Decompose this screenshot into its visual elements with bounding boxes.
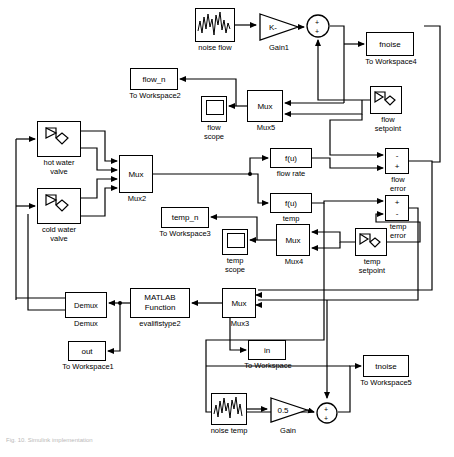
block-noise-flow-label: noise flow: [185, 44, 245, 53]
block-demux[interactable]: Demux: [65, 292, 107, 318]
block-flow-rate-fcn[interactable]: f(u): [270, 148, 312, 168]
valve-subsystem-icon: [38, 122, 79, 155]
block-flow-rate-sub: flow rate: [262, 170, 320, 179]
svg-text:+: +: [324, 406, 328, 413]
block-temp-scope-label: temp scope: [210, 257, 260, 274]
block-cold-water-valve-label: cold water valve: [25, 226, 93, 243]
sum-round-icon: + +: [306, 14, 330, 38]
block-noise-flow[interactable]: [195, 8, 235, 42]
block-mux4-sub: Mux4: [273, 258, 315, 267]
sum-round-icon: + +: [316, 402, 338, 424]
scope-screen-icon: [206, 100, 224, 115]
block-matlab-function-sub: evalifistype2: [122, 320, 198, 329]
block-temp-n-sub: To Workspace3: [148, 230, 222, 239]
block-in-workspace-sub: To Workspace: [234, 362, 302, 371]
block-matlab-function[interactable]: MATLAB Function: [130, 288, 190, 318]
block-sum-flow-noise[interactable]: + +: [306, 14, 330, 38]
svg-text:+: +: [324, 415, 328, 422]
block-out-workspace-sub: To Workspace1: [52, 363, 124, 372]
svg-text:+: +: [315, 19, 319, 26]
block-in-workspace[interactable]: in: [248, 340, 286, 360]
block-temp-fcn-sub: temp: [265, 215, 317, 224]
block-mux2-sub: Mux2: [116, 195, 158, 204]
block-mux5-sub: Mux5: [245, 124, 287, 133]
block-flow-setpoint[interactable]: [370, 86, 402, 114]
white-noise-icon: [212, 394, 245, 423]
block-tnoise[interactable]: tnoise: [363, 355, 409, 377]
valve-subsystem-icon: [38, 189, 79, 222]
figure-caption: Fig. 10. Simulink implementation: [6, 437, 93, 443]
block-flow-n-sub: To Workspace2: [118, 92, 192, 101]
block-noise-temp-label: noise temp: [199, 427, 259, 436]
block-temp-setpoint[interactable]: [355, 228, 387, 256]
flow-error-sign-bottom: +: [389, 160, 405, 173]
signal-generator-icon: [356, 229, 385, 254]
block-flow-scope-label: flow scope: [189, 124, 239, 141]
block-mux2[interactable]: Mux: [119, 155, 153, 193]
simulink-diagram-canvas: noise flow K- Gain1 + + fnoise To Worksp…: [0, 0, 454, 457]
block-mux3[interactable]: Mux: [222, 288, 256, 318]
block-fnoise-sub: To Workspace4: [356, 58, 426, 67]
block-mux5[interactable]: Mux: [247, 90, 283, 122]
block-hot-water-valve[interactable]: [37, 121, 81, 157]
block-flow-scope[interactable]: [201, 96, 227, 122]
block-temp-fcn[interactable]: f(u): [270, 193, 312, 213]
block-demux-sub: Demux: [62, 320, 110, 329]
block-out-workspace[interactable]: out: [68, 341, 106, 361]
block-temp-n[interactable]: temp_n: [161, 207, 209, 228]
block-mux3-sub: Mux3: [219, 320, 261, 329]
block-temp-scope[interactable]: [222, 229, 248, 255]
block-hot-water-valve-label: hot water valve: [27, 159, 91, 176]
block-tnoise-sub: To Workspace5: [351, 379, 421, 388]
block-gain[interactable]: 0.5: [269, 396, 309, 424]
block-flow-error[interactable]: - +: [385, 148, 409, 174]
svg-text:+: +: [315, 28, 319, 35]
block-flow-n[interactable]: flow_n: [130, 68, 178, 90]
block-gain1[interactable]: K-: [258, 12, 300, 42]
block-flow-setpoint-label: flow setpoint: [362, 116, 414, 133]
block-flow-error-label: flow error: [375, 176, 421, 193]
gain1-value: K-: [262, 20, 284, 34]
block-gain1-label: Gain1: [249, 44, 309, 53]
block-temp-setpoint-label: temp setpoint: [346, 258, 398, 275]
block-temp-error[interactable]: + -: [385, 195, 409, 221]
block-sum-temp-noise[interactable]: + +: [316, 402, 338, 424]
gain-value: 0.5: [272, 403, 294, 417]
block-mux4[interactable]: Mux: [276, 224, 310, 256]
block-noise-temp[interactable]: [211, 393, 247, 425]
white-noise-icon: [196, 9, 233, 40]
block-gain-label: Gain: [262, 427, 314, 436]
temp-error-sign-bottom: -: [389, 207, 405, 220]
block-cold-water-valve[interactable]: [37, 188, 81, 224]
block-fnoise[interactable]: fnoise: [366, 32, 414, 56]
signal-generator-icon: [371, 87, 400, 112]
scope-screen-icon: [227, 233, 245, 248]
